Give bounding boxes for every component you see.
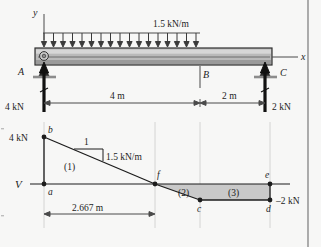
- dimension-a-b-label: 4 m: [110, 91, 125, 101]
- distributed-load-label: 1.5 kN/m: [153, 19, 190, 29]
- pin-connection-icon: [40, 52, 49, 61]
- point-e-label: e: [265, 170, 269, 180]
- node-f-dot: [153, 182, 158, 187]
- slope-run-label: 1.5 kN/m: [106, 152, 143, 162]
- beam-shear-figure: y: [0, 0, 321, 247]
- slope-rise-label: 1: [84, 137, 89, 147]
- node-d-dot: [268, 198, 273, 203]
- x-axis-label: x: [300, 51, 306, 62]
- support-a-label: A: [17, 66, 25, 77]
- area-1-label: (1): [64, 162, 75, 173]
- node-e-dot: [268, 182, 273, 187]
- dimension-zero-crossing-label: 2.667 m: [72, 203, 104, 213]
- point-a-label: a: [48, 187, 53, 197]
- point-d-label: d: [266, 204, 271, 214]
- node-b-dot: [42, 135, 47, 140]
- shear-end-value-label: –2 kN: [275, 196, 300, 206]
- node-c-dot: [198, 198, 203, 203]
- figure-root: y: [0, 0, 321, 247]
- support-b-label: B: [203, 69, 209, 80]
- node-a-dot: [42, 182, 47, 187]
- area-2-label: (2): [178, 188, 189, 199]
- support-c-label: C: [280, 67, 287, 78]
- area-3-label: (3): [228, 188, 239, 199]
- point-b-label: b: [48, 125, 53, 135]
- beam-body: [35, 48, 272, 65]
- y-axis-label: y: [32, 7, 38, 18]
- shear-start-value-label: 4 kN: [9, 133, 28, 143]
- dimension-b-c-label: 2 m: [222, 91, 237, 101]
- reaction-c-label: 2 kN: [272, 102, 291, 112]
- page-background: [0, 0, 321, 247]
- reaction-a-label: 4 kN: [5, 102, 24, 112]
